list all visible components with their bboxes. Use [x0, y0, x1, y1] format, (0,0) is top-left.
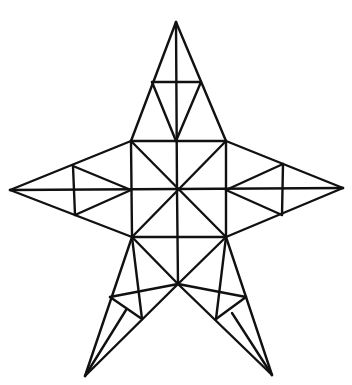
star-line — [232, 313, 272, 375]
star-line — [216, 297, 246, 319]
star-line — [282, 164, 283, 215]
star-line — [152, 82, 176, 141]
star-line — [226, 190, 282, 215]
star-line — [176, 82, 201, 141]
star-line — [73, 166, 75, 215]
star-line — [85, 284, 178, 376]
star-line — [132, 237, 178, 284]
star-line — [132, 237, 142, 319]
star-line — [75, 190, 131, 215]
star-line — [73, 166, 131, 190]
star-line — [177, 190, 178, 284]
star-line — [226, 164, 283, 190]
star-line — [110, 297, 142, 319]
star-drawing — [0, 0, 352, 385]
star-line — [226, 188, 343, 237]
star-line — [178, 237, 226, 284]
star-line — [176, 22, 177, 190]
star-line — [216, 237, 226, 319]
